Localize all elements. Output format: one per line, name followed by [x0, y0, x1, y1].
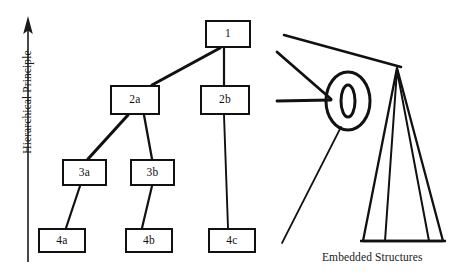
edge-2a-to-3b: [144, 115, 152, 159]
arrow-up-icon: [23, 16, 33, 262]
ellipse-inner: [341, 85, 355, 117]
ellipse-outer: [326, 72, 370, 130]
tree-node-4c[interactable]: 4c: [208, 228, 256, 253]
tree-node-1[interactable]: 1: [205, 20, 251, 48]
pointer-line-top: [284, 35, 401, 67]
tree-node-4b[interactable]: 4b: [125, 228, 173, 253]
tree-node-3a[interactable]: 3a: [62, 159, 107, 186]
pointer-line-upper: [277, 52, 331, 99]
tree-node-2a[interactable]: 2a: [110, 85, 160, 115]
tree-node-4a[interactable]: 4a: [38, 228, 86, 253]
embedded-ellipse: [326, 72, 370, 130]
tree-node-3b[interactable]: 3b: [130, 159, 175, 186]
edge-1-to-2a: [152, 48, 220, 85]
edge-3a-to-4a: [66, 186, 80, 228]
tree-node-2b[interactable]: 2b: [200, 85, 250, 115]
edge-2a-to-3a: [88, 115, 128, 159]
pointer-line-descending: [282, 127, 341, 243]
triangle-outer: [363, 68, 443, 241]
figure-root: Hierarchical Principle: [0, 0, 455, 278]
tree-edges: [66, 48, 228, 228]
edge-3b-to-4b: [142, 186, 152, 228]
embedded-structures-caption: Embedded Structures: [322, 251, 423, 263]
pointer-line-lower: [277, 100, 331, 101]
embedded-triangles: [360, 68, 446, 241]
edge-2b-to-4c: [224, 115, 228, 228]
